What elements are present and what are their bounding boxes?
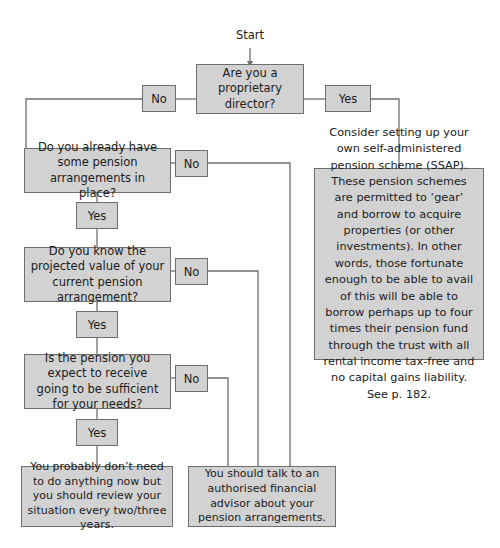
edge-q3-no-b (208, 271, 258, 466)
flowchart-canvas: Start Are you a proprietary director? No… (0, 0, 500, 548)
decision-projected-pension-value[interactable]: Do you know the projected value of your … (24, 247, 171, 302)
edge-label-q3-yes-text: Yes (88, 318, 107, 332)
edge-label-q2-no: No (175, 150, 208, 177)
edge-label-q1-yes-text: Yes (339, 92, 358, 106)
edge-q4-no-b (208, 378, 228, 466)
decision-proprietary-director-text: Are you a proprietary director? (202, 66, 298, 112)
outcome-review-periodically-text: You probably don’t need to do anything n… (27, 460, 167, 533)
decision-projected-pension-value-text: Do you know the projected value of your … (30, 244, 165, 305)
outcome-consult-advisor: You should talk to an authorised financi… (188, 466, 336, 527)
edge-label-q2-yes-text: Yes (88, 209, 107, 223)
decision-pension-sufficient[interactable]: Is the pension you expect to receive goi… (24, 354, 171, 409)
info-ssap-advice: Consider setting up your own self-admini… (314, 168, 484, 360)
edge-label-q2-yes: Yes (76, 202, 118, 229)
edge-label-q1-no-text: No (151, 92, 167, 106)
decision-existing-pension-arrangements-text: Do you already have some pension arrange… (30, 140, 165, 201)
decision-pension-sufficient-text: Is the pension you expect to receive goi… (30, 351, 165, 412)
edge-label-q4-no: No (175, 365, 208, 392)
outcome-consult-advisor-text: You should talk to an authorised financi… (194, 467, 330, 525)
edge-label-q3-no-text: No (184, 265, 200, 279)
edge-label-q4-no-text: No (184, 372, 200, 386)
start-label: Start (215, 28, 285, 42)
decision-proprietary-director[interactable]: Are you a proprietary director? (196, 64, 304, 114)
edge-label-q2-no-text: No (184, 157, 200, 171)
edge-label-q1-no: No (142, 85, 176, 112)
info-ssap-advice-text: Consider setting up your own self-admini… (323, 125, 475, 403)
outcome-review-periodically: You probably don’t need to do anything n… (21, 466, 173, 527)
edge-label-q3-no: No (175, 258, 208, 285)
decision-existing-pension-arrangements[interactable]: Do you already have some pension arrange… (24, 148, 171, 193)
edge-label-q3-yes: Yes (76, 311, 118, 338)
edge-label-q1-yes: Yes (325, 85, 371, 112)
edge-q2-no-b (208, 163, 290, 466)
edge-label-q4-yes: Yes (76, 419, 118, 446)
edge-label-q4-yes-text: Yes (88, 426, 107, 440)
